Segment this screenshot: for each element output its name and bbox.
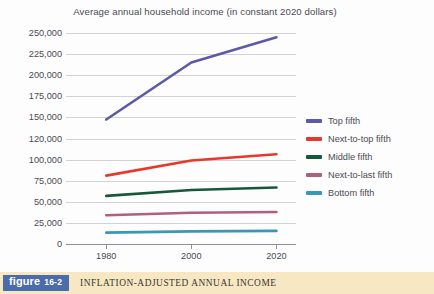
legend-swatch-icon	[306, 137, 322, 140]
y-axis-tick-label: 50,000	[34, 197, 62, 207]
x-axis-tick-label: 1980	[96, 251, 116, 261]
x-axis-tick-label: 2020	[266, 251, 286, 261]
plot-area	[66, 33, 296, 244]
y-axis-tick-label: 100,000	[29, 155, 62, 165]
y-axis-tick-label: 150,000	[29, 112, 62, 122]
legend-swatch-icon	[306, 155, 322, 158]
series-line	[106, 154, 276, 175]
series-line	[106, 37, 276, 119]
x-axis-tick	[191, 244, 192, 249]
series-line	[106, 212, 276, 215]
legend-item[interactable]: Bottom fifth	[306, 184, 432, 202]
y-axis-tick-label: 225,000	[29, 49, 62, 59]
legend-swatch-icon	[306, 191, 322, 194]
legend-swatch-icon	[306, 119, 322, 122]
series-lines	[66, 33, 296, 244]
legend-item[interactable]: Next-to-last fifth	[306, 166, 432, 184]
y-axis-tick-label: 175,000	[29, 91, 62, 101]
y-axis-tick-label: 200,000	[29, 70, 62, 80]
legend-swatch-icon	[306, 173, 322, 176]
y-axis-tick-label: 75,000	[34, 176, 62, 186]
figure-badge: figure 16-2	[3, 275, 69, 291]
x-axis-tick	[276, 244, 277, 249]
x-axis-tick-label: 2000	[181, 251, 201, 261]
series-line	[106, 231, 276, 233]
legend-item[interactable]: Next-to-top fifth	[306, 130, 432, 148]
x-axis-tick	[106, 244, 107, 249]
caption-text: INFLATION-ADJUSTED ANNUAL INCOME	[80, 278, 276, 288]
x-axis-line	[66, 244, 296, 245]
y-axis-tick-label: 250,000	[29, 28, 62, 38]
y-axis-tick-label: 0	[57, 239, 62, 249]
legend-item-label: Next-to-last fifth	[328, 170, 392, 180]
figure-container: Average annual household income (in cons…	[0, 0, 434, 294]
caption-bar: figure 16-2 INFLATION-ADJUSTED ANNUAL IN…	[0, 272, 434, 294]
legend-item-label: Bottom fifth	[328, 188, 374, 198]
y-axis-tick-label: 120,000	[29, 134, 62, 144]
y-axis-tick-label: 25,000	[34, 218, 62, 228]
legend-item[interactable]: Middle fifth	[306, 148, 432, 166]
legend-item-label: Next-to-top fifth	[328, 134, 391, 144]
figure-badge-number: 16-2	[44, 277, 62, 287]
legend-item-label: Top fifth	[328, 116, 360, 126]
y-axis-labels: 250,000225,000200,000175,000150,000120,0…	[0, 33, 62, 244]
chart-title: Average annual household income (in cons…	[0, 6, 410, 17]
figure-badge-word: figure	[9, 275, 40, 287]
legend: Top fifthNext-to-top fifthMiddle fifthNe…	[306, 112, 432, 202]
series-line	[106, 187, 276, 195]
legend-item-label: Middle fifth	[328, 152, 372, 162]
legend-item[interactable]: Top fifth	[306, 112, 432, 130]
